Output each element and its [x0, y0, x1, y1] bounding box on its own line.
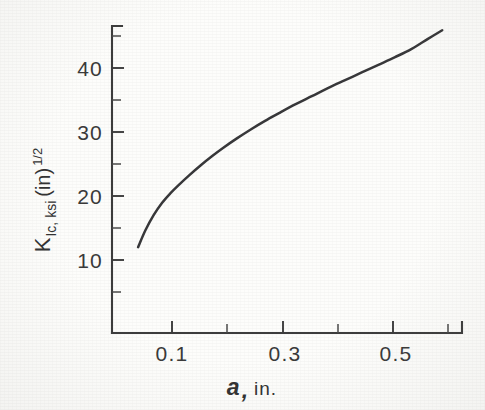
y-axis-title-paren: (in) — [32, 168, 54, 197]
x-tick-labels: 0.1 0.3 0.5 — [156, 342, 413, 365]
y-tick-labels: 40 30 20 10 — [77, 57, 103, 272]
figure-container: 40 30 20 10 0.1 0.3 0.5 a,in. KIc, ksi(i… — [0, 0, 485, 410]
x-tick-label-0.1: 0.1 — [156, 342, 189, 365]
axis-lines — [112, 26, 462, 333]
y-axis-title: KIc, ksi(in)1/2 — [30, 148, 59, 252]
x-tick-label-0.3: 0.3 — [269, 342, 302, 365]
y-axis-ticks — [112, 36, 124, 292]
chart-canvas: 40 30 20 10 0.1 0.3 0.5 a,in. KIc, ksi(i… — [0, 0, 485, 410]
svg-text:KIc, ksi(in)1/2: KIc, ksi(in)1/2 — [30, 148, 59, 252]
x-axis-title-symbol: a — [227, 374, 240, 400]
y-tick-label-10: 10 — [77, 249, 103, 272]
svg-text:a,in.: a,in. — [227, 374, 277, 403]
y-tick-label-30: 30 — [77, 121, 103, 144]
x-tick-label-0.5: 0.5 — [380, 342, 413, 365]
y-axis-line — [112, 26, 122, 333]
x-axis-ticks — [172, 321, 448, 333]
x-axis-title: a,in. — [227, 374, 277, 403]
y-axis-title-exponent: 1/2 — [30, 148, 45, 166]
y-axis-title-symbol: K — [30, 237, 55, 252]
x-axis-line — [112, 322, 462, 333]
data-curve-fracture-toughness — [138, 30, 442, 247]
y-tick-label-40: 40 — [77, 57, 103, 80]
x-axis-title-unit: in. — [254, 378, 277, 399]
y-axis-title-subscript: Ic, ksi — [43, 201, 59, 237]
y-tick-label-20: 20 — [77, 185, 103, 208]
x-axis-title-comma: , — [241, 377, 248, 403]
